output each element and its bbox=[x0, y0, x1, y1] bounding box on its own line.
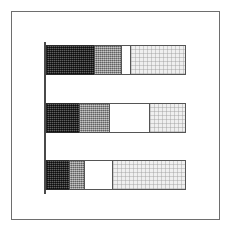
bar-1-segment-2-gray bbox=[94, 45, 122, 75]
bar-2-segment-3-white bbox=[109, 103, 149, 133]
plot-area bbox=[46, 40, 186, 195]
stacked-bar-chart-figure bbox=[0, 0, 239, 231]
bar-1-segment-4-light bbox=[130, 45, 186, 75]
bar-3-segment-3-white bbox=[84, 160, 113, 190]
bar-row-1 bbox=[46, 45, 186, 75]
bar-1-segment-1-dark bbox=[46, 45, 95, 75]
bar-2-segment-2-gray bbox=[79, 103, 111, 133]
bar-3-segment-2-gray bbox=[69, 160, 85, 190]
bar-2-segment-1-dark bbox=[46, 103, 80, 133]
bar-3-segment-4-light bbox=[112, 160, 186, 190]
bar-row-2 bbox=[46, 103, 186, 133]
bar-3-segment-1-dark bbox=[46, 160, 70, 190]
bar-row-3 bbox=[46, 160, 186, 190]
bar-2-segment-4-light bbox=[149, 103, 186, 133]
